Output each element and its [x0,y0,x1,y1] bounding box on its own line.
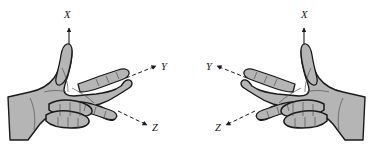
right-axis-label-x: X [300,9,308,20]
figure-canvas: X Y Z [0,0,373,155]
left-axis-label-x: X [63,9,71,20]
hand-rule-figure: X Y Z [0,0,373,155]
right-axis-label-z: Z [215,122,221,133]
left-axis-label-z: Z [152,122,158,133]
